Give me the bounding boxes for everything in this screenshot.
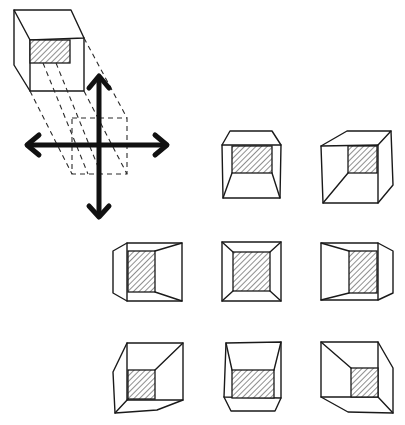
view-bottom-left (113, 343, 183, 413)
view-middle-center (222, 242, 281, 301)
view-middle-right (321, 243, 393, 300)
view-middle-left (113, 243, 182, 301)
view-bottom-center (224, 342, 281, 411)
view-bottom-right (321, 342, 393, 413)
view-top-center (222, 131, 281, 198)
diagram-canvas (0, 0, 405, 425)
movement-cross (27, 76, 167, 217)
view-top-right (321, 131, 393, 203)
